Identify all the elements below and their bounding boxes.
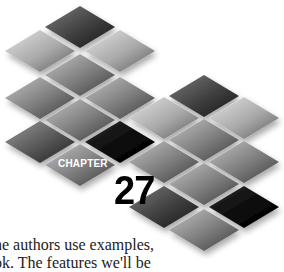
chapter-number: 27 <box>114 170 154 210</box>
chapter-label: CHAPTER <box>58 158 108 169</box>
body-text-line-1: he authors use examples, <box>0 236 154 254</box>
body-text-line-2: ok. The features we'll be <box>0 254 151 272</box>
